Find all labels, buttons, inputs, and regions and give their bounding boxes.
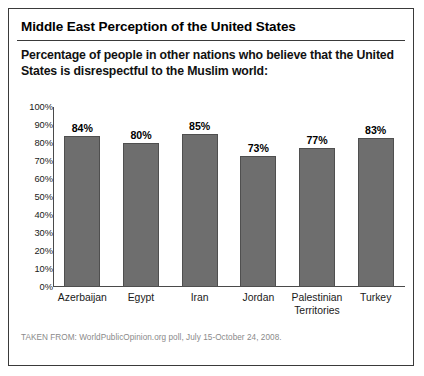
bar-iran[interactable]	[182, 134, 218, 287]
x-label-azerbaijan: Azerbaijan	[53, 291, 112, 304]
bar-slot: 83%	[358, 107, 394, 287]
chart-figure: Middle East Perception of the United Sta…	[8, 8, 414, 366]
y-tick-60: 60%	[17, 174, 53, 184]
y-tick-10: 10%	[17, 264, 53, 274]
x-label-turkey: Turkey	[346, 291, 405, 304]
bar-jordan[interactable]	[240, 156, 276, 287]
bar-value-label: 85%	[189, 120, 210, 132]
x-label-iran: Iran	[170, 291, 229, 304]
bar-value-label: 80%	[130, 129, 151, 141]
y-tick-100: 100%	[17, 102, 53, 112]
y-tick-40: 40%	[17, 210, 53, 220]
bar-slot: 73%	[240, 107, 276, 287]
bar-value-label: 84%	[72, 122, 93, 134]
chart-title: Middle East Perception of the United Sta…	[21, 19, 296, 34]
chart-subtitle: Percentage of people in other nations wh…	[21, 47, 403, 79]
x-label-jordan: Jordan	[229, 291, 288, 304]
y-tick-0: 0%	[17, 282, 53, 292]
y-tick-20: 20%	[17, 246, 53, 256]
y-tick-70: 70%	[17, 156, 53, 166]
bar-azerbaijan[interactable]	[64, 136, 100, 287]
bar-egypt[interactable]	[123, 143, 159, 287]
bar-slot: 84%	[64, 107, 100, 287]
bar-palestinian-territories[interactable]	[299, 148, 335, 287]
y-tick-90: 90%	[17, 120, 53, 130]
x-label-palestinian-territories: Palestinian Territories	[288, 291, 347, 317]
plot-area: 100%90%80%70%60%50%40%30%20%10%0% 84%80%…	[9, 99, 415, 299]
bar-series: 84%80%85%73%77%83%	[53, 107, 405, 287]
bar-value-label: 83%	[365, 124, 386, 136]
y-tick-30: 30%	[17, 228, 53, 238]
bar-value-label: 77%	[306, 134, 327, 146]
bar-slot: 77%	[299, 107, 335, 287]
bar-slot: 85%	[182, 107, 218, 287]
y-tick-80: 80%	[17, 138, 53, 148]
bar-turkey[interactable]	[358, 138, 394, 287]
y-tick-50: 50%	[17, 192, 53, 202]
y-axis-tick-labels: 100%90%80%70%60%50%40%30%20%10%0%	[17, 99, 53, 279]
x-label-egypt: Egypt	[112, 291, 171, 304]
title-divider	[17, 40, 405, 41]
bar-value-label: 73%	[248, 142, 269, 154]
source-footnote: TAKEN FROM: WorldPublicOpinion.org poll,…	[21, 333, 282, 342]
bar-slot: 80%	[123, 107, 159, 287]
